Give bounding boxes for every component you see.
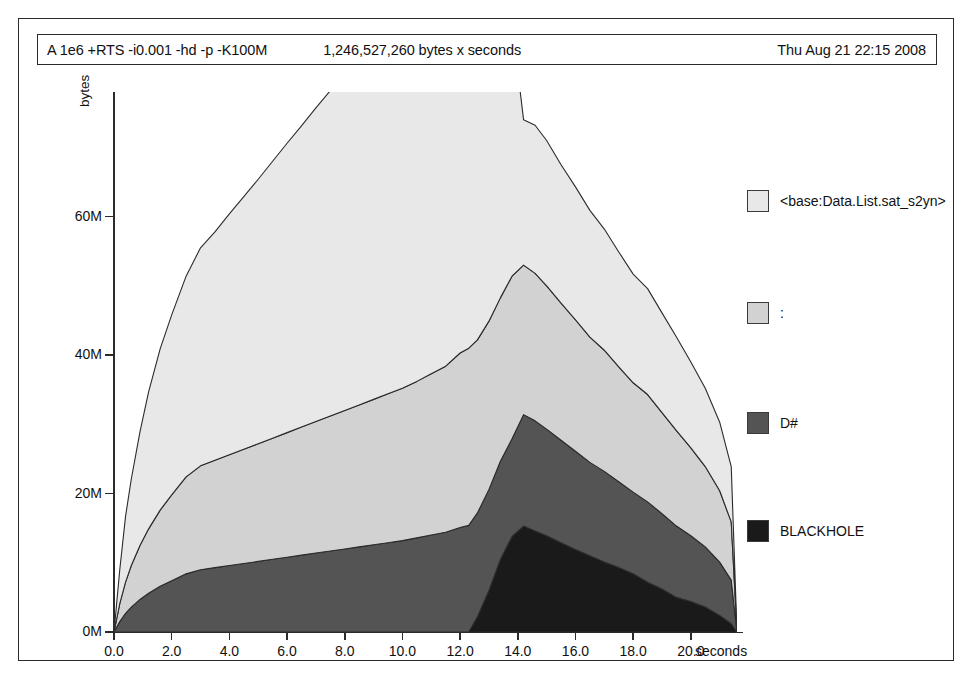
x-tick-mark xyxy=(344,632,346,640)
legend-item[interactable]: <base:Data.List.sat_s2yn> xyxy=(747,189,946,213)
x-tick-label: 14.0 xyxy=(504,643,531,659)
x-tick-mark xyxy=(113,632,115,640)
area-bands xyxy=(114,92,737,632)
x-tick-label: 2.0 xyxy=(162,643,181,659)
legend-swatch-icon xyxy=(747,302,769,324)
heap-profile-plot xyxy=(114,92,737,632)
x-tick-mark xyxy=(229,632,231,640)
x-tick-mark xyxy=(459,632,461,640)
x-tick-label: 18.0 xyxy=(620,643,647,659)
legend-item[interactable]: BLACKHOLE xyxy=(747,519,864,543)
y-tick-mark xyxy=(105,354,114,356)
y-tick-mark xyxy=(105,216,114,218)
y-tick-label: 20M xyxy=(75,485,102,501)
profile-window-frame: A 1e6 +RTS -i0.001 -hd -p -K100M 1,246,5… xyxy=(18,18,954,661)
title-total-label: 1,246,527,260 bytes x seconds xyxy=(323,42,521,58)
legend-item[interactable]: : xyxy=(747,301,784,325)
x-tick-mark xyxy=(575,632,577,640)
stacked-area-chart xyxy=(114,92,737,632)
x-tick-mark xyxy=(402,632,404,640)
y-tick-mark xyxy=(105,493,114,495)
x-axis-title: seconds xyxy=(695,643,747,659)
title-date-label: Thu Aug 21 22:15 2008 xyxy=(777,42,936,58)
legend-swatch-icon xyxy=(747,190,769,212)
x-tick-label: 8.0 xyxy=(335,643,354,659)
x-tick-label: 0.0 xyxy=(104,643,123,659)
legend-item[interactable]: D# xyxy=(747,411,798,435)
y-tick-label: 60M xyxy=(75,208,102,224)
x-tick-label: 4.0 xyxy=(220,643,239,659)
x-tick-mark xyxy=(286,632,288,640)
x-tick-mark xyxy=(517,632,519,640)
x-tick-label: 12.0 xyxy=(446,643,473,659)
legend-item-label: <base:Data.List.sat_s2yn> xyxy=(780,193,946,209)
x-tick-label: 6.0 xyxy=(277,643,296,659)
y-axis-title: bytes xyxy=(77,75,92,107)
x-tick-mark xyxy=(171,632,173,640)
legend-swatch-icon xyxy=(747,412,769,434)
legend-item-label: BLACKHOLE xyxy=(780,523,864,539)
legend-item-label: : xyxy=(780,305,784,321)
legend-swatch-icon xyxy=(747,520,769,542)
x-tick-mark xyxy=(632,632,634,640)
y-tick-label: 40M xyxy=(75,346,102,362)
y-tick-label: 0M xyxy=(83,623,102,639)
title-command-label: A 1e6 +RTS -i0.001 -hd -p -K100M xyxy=(38,42,267,58)
title-bar: A 1e6 +RTS -i0.001 -hd -p -K100M 1,246,5… xyxy=(37,34,937,65)
x-tick-label: 10.0 xyxy=(389,643,416,659)
x-tick-mark xyxy=(690,632,692,640)
x-tick-label: 16.0 xyxy=(562,643,589,659)
legend-item-label: D# xyxy=(780,415,798,431)
